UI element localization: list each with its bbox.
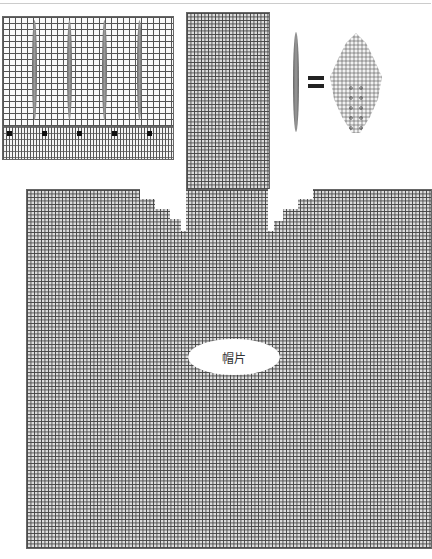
shoulder-step [155,199,186,209]
leaf-motif-icon [67,20,72,120]
hat-piece-label: 帽片 [188,339,280,375]
marker-icon [77,131,82,136]
shoulder-step [268,189,313,199]
shoulder-step [170,209,186,219]
swatch-grid [2,16,174,130]
marker-icon [7,131,12,136]
shoulder-step [140,189,186,199]
shoulder-step [181,219,186,231]
equals-icon [308,76,324,92]
top-border [0,3,431,4]
diamond-leaf-chart-icon [330,33,382,137]
shoulder-step [268,221,274,231]
leaf-symbol-icon [293,32,299,132]
shoulder-step [268,209,283,221]
leaf-motif-icon [137,20,142,120]
leaf-motif-icon [102,20,107,120]
marker-icon [112,131,117,136]
marker-icon [42,131,47,136]
shoulder-step [268,199,298,209]
label-text: 帽片 [222,349,246,366]
center-strip-grid [186,12,270,214]
leaf-motif-icon [32,20,37,120]
marker-icon [147,131,152,136]
